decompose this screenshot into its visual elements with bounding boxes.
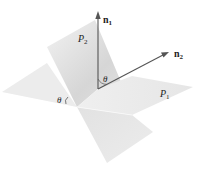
plane-p2-lower (77, 107, 153, 163)
two-planes-diagram: n1 n2 P2 P1 θ θ (0, 0, 198, 170)
arrowhead-n1-icon (95, 11, 100, 19)
label-n1: n1 (103, 14, 113, 27)
label-theta-planes: θ (57, 95, 62, 105)
arrowhead-n2-icon (161, 52, 169, 57)
label-n2: n2 (174, 48, 184, 61)
label-theta-normals: θ (103, 74, 108, 84)
